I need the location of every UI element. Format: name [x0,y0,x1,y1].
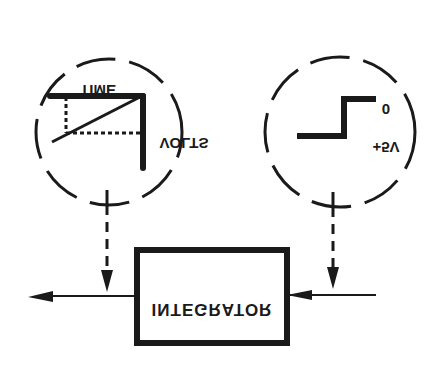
output-arrowhead-icon [28,291,53,302]
integrator-diagram: INTEGRATOR TIME VOLTS 0 +5V [0,0,437,390]
ramp-inset [36,59,182,205]
step-low-label: +5V [372,139,399,156]
step-inset [265,57,415,207]
input-arrowhead-icon [287,290,312,300]
time-axis-label: TIME [80,82,116,99]
step-high-label: 0 [382,101,390,118]
step-connector-arrowhead-icon [327,267,339,289]
step-waveform [297,99,376,136]
volts-axis-label: VOLTS [160,135,209,152]
integrator-label: INTEGRATOR [152,300,273,319]
integrator-box [137,250,287,343]
ramp-connector-arrowhead-icon [101,270,113,292]
dashed-circle-icon [265,57,415,207]
